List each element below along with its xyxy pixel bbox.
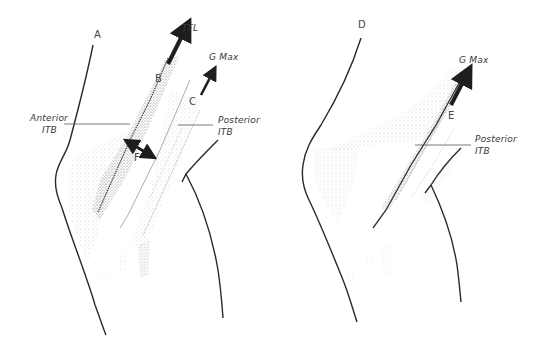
left-knee-figure: A B C F TFL G Max Anterior ITB Posterior…: [0, 0, 271, 352]
itb-stipple-distal-3: [100, 260, 108, 279]
itb-stipple-distal-3: [346, 270, 354, 286]
itb-stipple-distal-2: [366, 254, 374, 271]
label-tfl: TFL: [182, 23, 198, 34]
label-posterior-itb-line2: ITB: [475, 146, 490, 157]
itb-stipple-distal-2: [118, 252, 128, 274]
label-posterior-itb-line1: Posterior: [475, 134, 517, 145]
itb-stipple-distal-1: [138, 240, 150, 278]
label-anterior-itb-line1: Anterior: [24, 113, 68, 124]
right-knee-figure: D E G Max Posterior ITB: [271, 0, 542, 352]
label-posterior-itb-line1: Posterior: [218, 115, 260, 126]
label-f: F: [134, 152, 140, 163]
label-gmax: G Max: [459, 55, 488, 66]
label-posterior-itb-line2: ITB: [218, 127, 233, 138]
itb-stipple-posterior-band: [419, 148, 463, 205]
label-c: C: [189, 96, 196, 107]
label-e: E: [448, 110, 455, 121]
label-a: A: [94, 29, 101, 40]
label-b: B: [155, 73, 162, 84]
label-d: D: [358, 19, 366, 30]
gmax-arrow: [201, 72, 213, 95]
itb-stipple-distal-1: [381, 243, 391, 277]
itb-stipple-patellar: [69, 132, 128, 260]
right-knee-drawing: [271, 0, 542, 352]
posterior-leg-outline: [182, 140, 223, 318]
label-anterior-itb-line2: ITB: [24, 125, 57, 136]
label-gmax: G Max: [209, 52, 238, 63]
itb-stipple-patellar: [313, 146, 361, 222]
